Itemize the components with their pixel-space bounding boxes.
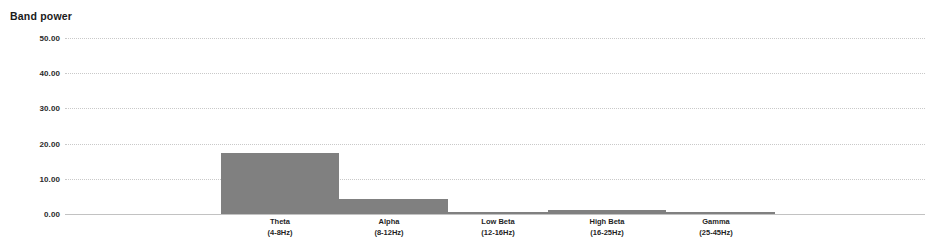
band-name: Low Beta [444, 217, 553, 228]
y-tick-label: 0.00 [8, 210, 60, 219]
bar-alpha[interactable] [330, 199, 448, 214]
y-tick-label: 50.00 [8, 34, 60, 43]
y-tick-label: 10.00 [8, 174, 60, 183]
band-name: Alpha [335, 217, 444, 228]
band-range: (4-8Hz) [226, 228, 335, 239]
band-name: Theta [226, 217, 335, 228]
band-name: Gamma [662, 217, 771, 228]
gridline [65, 179, 925, 180]
gridline [65, 73, 925, 74]
plot-area [65, 38, 925, 214]
band-range: (12-16Hz) [444, 228, 553, 239]
gridline [65, 214, 925, 215]
gridline [65, 38, 925, 39]
band-range: (25-45Hz) [662, 228, 771, 239]
y-tick-label: 40.00 [8, 69, 60, 78]
gridline [65, 144, 925, 145]
x-tick-gamma: Gamma(25-45Hz) [662, 217, 771, 239]
y-tick-label: 20.00 [8, 139, 60, 148]
y-tick-label: 30.00 [8, 104, 60, 113]
band-name: High Beta [553, 217, 662, 228]
x-tick-theta: Theta(4-8Hz) [226, 217, 335, 239]
x-tick-alpha: Alpha(8-12Hz) [335, 217, 444, 239]
x-axis: Theta(4-8Hz)Alpha(8-12Hz)Low Beta(12-16H… [65, 217, 925, 249]
band-range: (16-25Hz) [553, 228, 662, 239]
bar-low-beta[interactable] [439, 212, 557, 214]
gridline [65, 108, 925, 109]
bar-theta[interactable] [221, 153, 339, 214]
x-tick-high-beta: High Beta(16-25Hz) [553, 217, 662, 239]
band-power-chart-panel: Band power 50.0040.0030.0020.0010.000.00… [0, 0, 944, 252]
x-tick-low-beta: Low Beta(12-16Hz) [444, 217, 553, 239]
bar-gamma[interactable] [657, 212, 775, 214]
y-axis: 50.0040.0030.0020.0010.000.00 [0, 38, 60, 214]
bar-high-beta[interactable] [548, 210, 666, 214]
chart-title: Band power [10, 10, 72, 22]
band-range: (8-12Hz) [335, 228, 444, 239]
